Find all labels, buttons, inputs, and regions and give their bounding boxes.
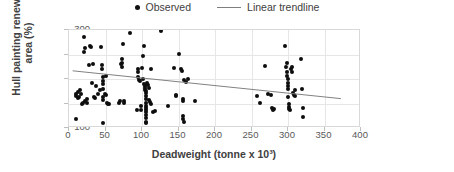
x-axis-tick-mark [360,127,361,131]
x-axis-tick-label: 400 [345,130,375,140]
x-axis-tick-mark [178,127,179,131]
legend-entry-observed: Observed [135,2,192,13]
chart-legend: Observed Linear trendline [0,2,454,13]
x-axis-tick-label: 150 [163,130,193,140]
x-axis-tick-mark [141,127,142,131]
trendline-segment [73,71,341,99]
x-axis-tick-label: 250 [236,130,266,140]
x-axis-tick-mark [324,127,325,131]
legend-label-observed: Observed [146,2,192,13]
x-axis-tick-mark [214,127,215,131]
legend-line-marker-icon [217,7,241,8]
x-axis-tick-label: 0 [53,130,83,140]
x-axis-tick-label: 200 [199,130,229,140]
legend-entry-linear-trendline: Linear trendline [217,2,319,13]
scatter-chart: Observed Linear trendline Hull painting … [0,0,454,172]
legend-dot-marker-icon [135,5,140,10]
linear-trendline [69,30,359,126]
x-axis-title: Deadweight (tonne x 10³) [68,148,360,160]
plot-area [68,29,360,127]
y-axis-title: Hull painting renewal area (%) [9,0,35,103]
x-axis-tick-label: 300 [272,130,302,140]
x-axis-tick-mark [105,127,106,131]
x-axis-tick-label: 50 [90,130,120,140]
x-axis-tick-label: 100 [126,130,156,140]
x-axis-tick-mark [287,127,288,131]
x-axis-tick-label: 350 [309,130,339,140]
legend-label-linear-trendline: Linear trendline [247,2,319,13]
x-axis-tick-mark [251,127,252,131]
x-axis-tick-mark [68,127,69,131]
